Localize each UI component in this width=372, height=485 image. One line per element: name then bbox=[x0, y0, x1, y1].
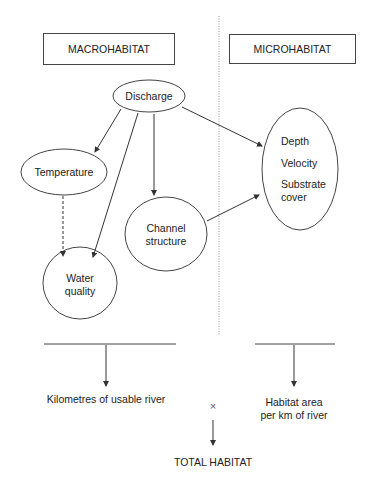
water-quality-label-1: Water bbox=[43, 272, 117, 285]
kilometres-label: Kilometres of usable river bbox=[40, 393, 172, 406]
water-quality-label-2: quality bbox=[43, 285, 117, 298]
multiply-sign: × bbox=[206, 400, 220, 413]
habitat-area-label-2: per km of river bbox=[254, 409, 334, 422]
channel-label-2: structure bbox=[125, 235, 207, 248]
arrow-channel-micro bbox=[207, 195, 259, 221]
substrate-label-2: cover bbox=[281, 191, 307, 204]
arrow-discharge-micro bbox=[182, 107, 262, 146]
velocity-label: Velocity bbox=[281, 157, 317, 170]
depth-label: Depth bbox=[281, 135, 309, 148]
temperature-label: Temperature bbox=[21, 166, 107, 179]
discharge-label: Discharge bbox=[113, 90, 185, 103]
arrow-discharge-temperature bbox=[95, 109, 121, 152]
substrate-label-1: Substrate bbox=[281, 178, 326, 191]
habitat-area-label-1: Habitat area bbox=[254, 396, 334, 409]
total-habitat-label: TOTAL HABITAT bbox=[160, 456, 266, 469]
microhabitat-header: MICROHABITAT bbox=[229, 34, 356, 64]
macrohabitat-header: MACROHABITAT bbox=[43, 33, 175, 65]
channel-label-1: Channel bbox=[125, 222, 207, 235]
